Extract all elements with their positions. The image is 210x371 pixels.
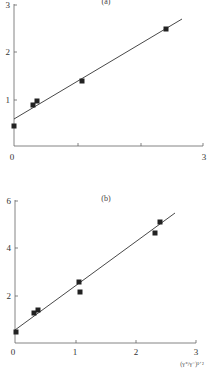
figure: (a) 3 2 1 0 3 (b) 6 4 2 bbox=[0, 0, 210, 371]
chart-a-xtick-3: 3 bbox=[202, 152, 207, 162]
chart-a-xtick-0: 0 bbox=[10, 152, 15, 162]
chart-b-xtick-2: 2 bbox=[134, 347, 139, 357]
chart-a-ytick-3: 3 bbox=[6, 0, 11, 10]
chart-b-xlabel: (γ⁺/γ⁻)¹ᐟ² bbox=[180, 361, 204, 368]
chart-b-ytick-4: 4 bbox=[7, 243, 12, 253]
chart-b-ytick-6: 6 bbox=[7, 196, 12, 206]
chart-a: (a) 3 2 1 0 3 bbox=[6, 0, 207, 162]
chart-a-fit-line bbox=[14, 19, 182, 119]
chart-b-xtick-0: 0 bbox=[11, 347, 16, 357]
chart-b-xtick-3: 3 bbox=[194, 347, 199, 357]
chart-b-title: (b) bbox=[101, 194, 111, 203]
chart-a-title: (a) bbox=[102, 0, 111, 6]
chart-a-ytick-2: 2 bbox=[6, 47, 11, 57]
chart-b-xtick-1: 1 bbox=[73, 347, 78, 357]
chart-b: (b) 6 4 2 0 1 2 3 (γ⁺/γ⁻)¹ᐟ² bbox=[7, 194, 204, 368]
chart-b-ytick-2: 2 bbox=[7, 291, 12, 301]
chart-a-markers bbox=[12, 27, 169, 129]
chart-a-ytick-1: 1 bbox=[6, 95, 11, 105]
